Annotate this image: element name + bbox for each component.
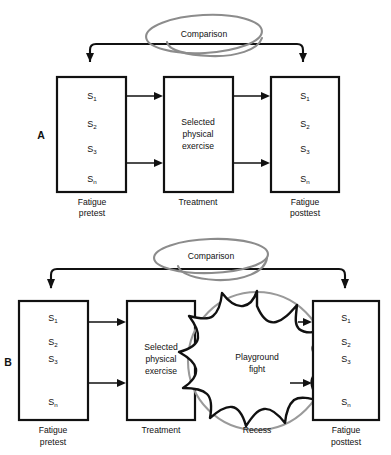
panel-a-posttest-caption-line1: Fatigue bbox=[291, 197, 320, 207]
panel-b-arrow-pretest-treatment-top bbox=[89, 318, 126, 326]
panel-a-treatment-line-3: exercise bbox=[182, 141, 214, 151]
panel-a-bracket-arrow-right bbox=[299, 53, 307, 62]
recess-caption: Recess bbox=[243, 425, 272, 435]
panel-b-pretest-caption-line1: Fatigue bbox=[39, 425, 68, 435]
panel-b-arrow-burst-posttest-top bbox=[298, 318, 312, 326]
playground-fight-line-1: Playground bbox=[235, 352, 279, 362]
panel-b-arrow-pretest-treatment-bottom bbox=[89, 379, 126, 387]
panel-a-arrow-pretest-treatment-bottom bbox=[127, 159, 163, 167]
panel-a-pretest-caption-line1: Fatigue bbox=[78, 197, 107, 207]
panel-b-pretest-caption-line2: pretest bbox=[40, 437, 67, 447]
panel-b-comparison-label: Comparison bbox=[188, 251, 235, 261]
panel-b-treatment-line-2: physical bbox=[145, 354, 176, 364]
panel-b-pretest-box: S1 S2 S3 Sn Fatigue pretest bbox=[19, 301, 88, 447]
panel-b-bracket-arrow-left bbox=[47, 279, 55, 289]
panel-a-comparison-label: Comparison bbox=[181, 29, 228, 39]
panel-b: Comparison S1 S2 S3 Sn Fatigue pretest bbox=[4, 237, 379, 447]
panel-b-posttest-caption-line1: Fatigue bbox=[332, 425, 361, 435]
figure-diagram: Comparison S1 S2 S3 Sn Fatigue pretest bbox=[0, 0, 391, 455]
panel-a-arrow-treatment-posttest-bottom bbox=[234, 159, 270, 167]
panel-b-treatment-line-1: Selected bbox=[144, 342, 178, 352]
panel-a-treatment-line-2: physical bbox=[182, 129, 213, 139]
panel-a-arrow-treatment-posttest-top bbox=[234, 92, 270, 100]
panel-b-treatment-line-3: exercise bbox=[145, 366, 177, 376]
panel-a-treatment-line-1: Selected bbox=[181, 117, 215, 127]
panel-a-treatment-caption: Treatment bbox=[179, 197, 218, 207]
panel-a-posttest-caption-line2: posttest bbox=[290, 208, 321, 218]
panel-a-posttest-box: S1 S2 S3 Sn Fatigue posttest bbox=[271, 77, 339, 218]
panel-b-treatment-box: Selected physical exercise Treatment bbox=[127, 301, 195, 435]
panel-a: Comparison S1 S2 S3 Sn Fatigue pretest bbox=[37, 12, 339, 218]
panel-a-treatment-box: Selected physical exercise Treatment bbox=[164, 77, 233, 207]
panel-b-label: B bbox=[4, 356, 12, 368]
panel-b-posttest-box: S1 S2 S3 Sn Fatigue posttest bbox=[313, 301, 379, 447]
playground-fight-line-2: fight bbox=[249, 364, 266, 374]
panel-b-bracket-arrow-right bbox=[341, 279, 349, 289]
panel-a-arrow-pretest-treatment-top bbox=[127, 92, 163, 100]
panel-a-pretest-box: S1 S2 S3 Sn Fatigue pretest bbox=[57, 77, 126, 218]
panel-a-bracket-arrow-left bbox=[86, 53, 94, 62]
panel-a-label: A bbox=[37, 129, 45, 141]
panel-b-treatment-caption: Treatment bbox=[142, 425, 181, 435]
panel-b-posttest-caption-line2: posttest bbox=[331, 437, 362, 447]
panel-a-pretest-caption-line2: pretest bbox=[79, 208, 106, 218]
